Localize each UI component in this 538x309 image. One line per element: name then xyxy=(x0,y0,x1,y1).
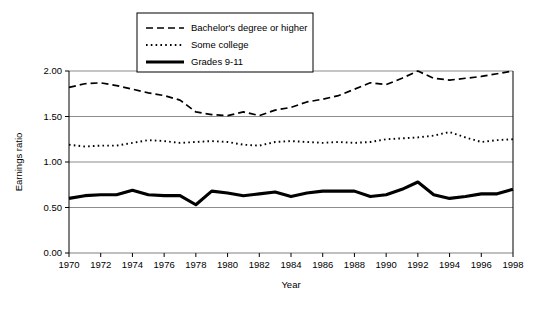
x-tick-label: 1986 xyxy=(312,259,333,270)
y-tick-label: 1.50 xyxy=(44,111,63,122)
series-lines xyxy=(69,71,513,205)
x-tick-label: 1994 xyxy=(439,259,460,270)
y-tick-label: 0.50 xyxy=(44,202,63,213)
x-tick-label: 1996 xyxy=(471,259,492,270)
chart-canvas: 0.000.501.001.502.00 1970197219741976197… xyxy=(0,0,538,309)
x-tick-label: 1978 xyxy=(185,259,206,270)
x-tick-label: 1970 xyxy=(58,259,79,270)
y-tick-label: 2.00 xyxy=(44,65,63,76)
series-line-2 xyxy=(69,182,513,205)
legend: Bachelor's degree or higherSome collegeG… xyxy=(137,13,313,72)
x-axis-title: Year xyxy=(281,279,300,290)
legend-label-2: Grades 9-11 xyxy=(191,56,243,67)
x-tick-label: 1998 xyxy=(502,259,523,270)
x-axis-ticks: 1970197219741976197819801982198419861988… xyxy=(58,253,523,270)
x-tick-label: 1982 xyxy=(249,259,270,270)
x-tick-label: 1980 xyxy=(217,259,238,270)
x-tick-label: 1992 xyxy=(407,259,428,270)
series-line-1 xyxy=(69,132,513,147)
x-tick-label: 1990 xyxy=(376,259,397,270)
legend-label-0: Bachelor's degree or higher xyxy=(191,22,307,33)
x-tick-label: 1972 xyxy=(90,259,111,270)
y-tick-label: 1.00 xyxy=(44,156,63,167)
legend-label-1: Some college xyxy=(191,39,249,50)
gridlines xyxy=(69,71,513,253)
y-axis-ticks: 0.000.501.001.502.00 xyxy=(44,65,70,258)
series-line-0 xyxy=(69,71,513,116)
x-tick-label: 1974 xyxy=(122,259,143,270)
x-tick-label: 1988 xyxy=(344,259,365,270)
earnings-ratio-chart: 0.000.501.001.502.00 1970197219741976197… xyxy=(0,0,538,309)
x-tick-label: 1984 xyxy=(280,259,301,270)
y-tick-label: 0.00 xyxy=(44,247,63,258)
x-tick-label: 1976 xyxy=(154,259,175,270)
y-axis-title: Earnings ratio xyxy=(13,133,24,192)
